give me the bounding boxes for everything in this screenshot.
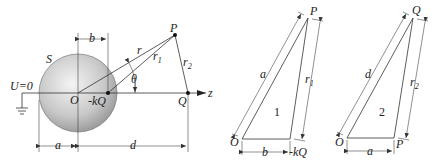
point-p-label: P <box>169 21 178 35</box>
t2-vertex-q: Q <box>412 3 421 17</box>
dim-b-label: b <box>89 31 95 45</box>
theta-label: θ <box>131 72 137 86</box>
t2-number: 2 <box>379 105 385 119</box>
ground-icon <box>16 93 28 114</box>
t2-side-a: a <box>367 144 373 158</box>
t1-side-b: b <box>262 145 268 159</box>
image-charge-diagram: S U=0 O -kQ Q P z θ r r1 r2 b a d O P -k… <box>0 0 438 163</box>
t1-side-a: a <box>260 67 266 81</box>
t1-number: 1 <box>274 105 280 119</box>
ground-label: U=0 <box>10 79 33 93</box>
t2-side-d: d <box>365 67 372 81</box>
r-label: r <box>137 43 142 57</box>
image-charge-label: -kQ <box>88 94 106 108</box>
main-figure: S U=0 O -kQ Q P z θ r r1 r2 b a d <box>10 21 213 152</box>
image-charge-point <box>106 91 110 95</box>
r2-label: r2 <box>183 55 192 71</box>
charge-label: Q <box>178 94 187 108</box>
triangle-1: O P -kQ a b r1 1 <box>230 4 323 159</box>
t1-vertex-kq: -kQ <box>289 145 307 159</box>
t1-vertex-o: O <box>230 135 239 149</box>
z-axis-label: z <box>207 86 213 100</box>
t2-vertex-p: P <box>395 137 404 151</box>
t2-side-r2: r2 <box>410 75 419 91</box>
triangle-2: O Q P d a r2 2 <box>335 3 428 158</box>
sphere-label: S <box>46 52 52 66</box>
origin-label: O <box>70 93 79 107</box>
dim-a-label: a <box>55 138 61 152</box>
t1-side-r1: r1 <box>305 72 314 88</box>
t2-vertex-o: O <box>335 135 344 149</box>
t1-vertex-p: P <box>309 4 318 18</box>
r1-label: r1 <box>153 49 162 65</box>
dim-d-label: d <box>130 138 137 152</box>
